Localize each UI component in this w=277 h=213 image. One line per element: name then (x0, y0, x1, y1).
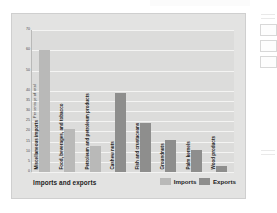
y-tick-label: 70 (26, 28, 30, 32)
bar-series-group: Miscellaneous importsFood, beverages, an… (32, 30, 234, 172)
legend-item-imports: Imports (160, 178, 196, 185)
gridline (32, 172, 234, 173)
y-tick-label: 35 (26, 99, 30, 103)
chart-caption-row: Imports and exports Imports Exports (31, 176, 236, 190)
bar[interactable] (90, 146, 101, 172)
bar[interactable] (64, 129, 75, 172)
category-label: Wood products (212, 136, 217, 170)
legend-swatch-imports-icon (160, 178, 171, 185)
bar-group[interactable]: Food, beverages, and tobacco (57, 30, 82, 172)
y-tick-label: 20 (26, 130, 30, 134)
plot-area: Percentage of total 05101520253035405060… (31, 30, 234, 172)
bar-group[interactable]: Cashew nuts (108, 30, 133, 172)
bar[interactable] (115, 93, 126, 172)
legend-item-exports: Exports (199, 178, 236, 185)
category-label: Miscellaneous imports (36, 120, 41, 170)
chart-legend: Imports Exports (160, 178, 236, 185)
y-tick-label: 25 (26, 119, 30, 123)
category-label: Petroleum and petroleum products (86, 94, 91, 170)
category-label: Cashew nuts (111, 142, 116, 170)
legend-swatch-exports-icon (199, 178, 210, 185)
y-tick-label: 0 (28, 170, 30, 174)
y-tick-label: 30 (26, 109, 30, 113)
bar-group[interactable]: Fish and crustaceans (133, 30, 158, 172)
y-tick-label: 10 (26, 150, 30, 154)
category-label: Groundnuts (162, 144, 167, 170)
bar[interactable] (216, 166, 227, 172)
page-edge-artifact-right (258, 0, 277, 213)
category-label: Food, beverages, and tobacco (61, 104, 66, 170)
legend-label-exports: Exports (213, 178, 236, 185)
category-label: Palm kernels (187, 142, 192, 170)
bar[interactable] (140, 123, 151, 172)
bar-group[interactable]: Palm kernels (184, 30, 209, 172)
y-tick-label: 5 (28, 160, 30, 164)
y-tick-label: 50 (26, 69, 30, 73)
bar[interactable] (165, 140, 176, 172)
x-axis-title: Imports and exports (33, 179, 96, 186)
bar-group[interactable]: Groundnuts (158, 30, 183, 172)
page-edge-artifact-top (150, 0, 250, 6)
y-tick-label: 15 (26, 140, 30, 144)
bar-group[interactable]: Petroleum and petroleum products (83, 30, 108, 172)
y-tick-label: 40 (26, 89, 30, 93)
y-tick-label: 60 (26, 48, 30, 52)
bar[interactable] (39, 50, 50, 172)
bar[interactable] (191, 150, 202, 172)
category-label: Fish and crustaceans (137, 123, 142, 170)
legend-label-imports: Imports (174, 178, 197, 185)
bar-chart-figure: Percentage of total 05101520253035405060… (11, 13, 246, 199)
bar-group[interactable]: Wood products (209, 30, 234, 172)
bar-group[interactable]: Miscellaneous imports (32, 30, 57, 172)
